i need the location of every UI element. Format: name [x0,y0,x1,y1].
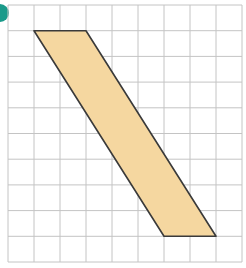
grid-figure [0,0,246,268]
